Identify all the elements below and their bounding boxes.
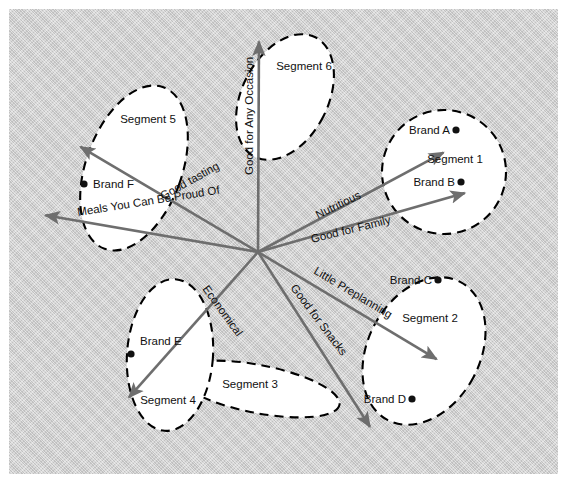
segment-label-6: Segment 6	[276, 60, 332, 72]
brand-label: Brand F	[93, 178, 134, 190]
segment-shape-6	[216, 18, 353, 176]
segment-label-5: Segment 5	[120, 113, 176, 125]
attribute-label-1: Good for Any Occasion	[243, 57, 255, 175]
segment-label-4: Segment 4	[140, 394, 196, 406]
attribute-label-2: Nutritious	[314, 189, 363, 221]
perceptual-map-svg: Good for Any OccasionNutritiousGood for …	[9, 9, 558, 474]
segments-layer	[59, 18, 510, 446]
screenshot-root: Good for Any OccasionNutritiousGood for …	[0, 0, 567, 484]
segment-shape-4	[122, 276, 218, 434]
segment-label-3: Segment 3	[222, 378, 278, 390]
brand-label: Brand C	[390, 274, 432, 286]
brand-label: Brand D	[364, 393, 406, 405]
brand-dot-icon	[127, 350, 134, 357]
segment-shape-5	[59, 71, 208, 265]
segment-label-1: Segment 1	[427, 153, 483, 165]
brand-dot-icon	[80, 180, 87, 187]
attribute-vector-1	[258, 41, 259, 252]
brand-dot-icon	[452, 126, 459, 133]
segment-label-2: Segment 2	[402, 312, 458, 324]
brand-dot-icon	[434, 276, 441, 283]
brand-label: Brand E	[140, 335, 182, 347]
brand-dot-icon	[457, 178, 464, 185]
brand-label: Brand A	[409, 124, 450, 136]
diagram-panel: Good for Any OccasionNutritiousGood for …	[9, 9, 558, 474]
brand-dot-icon	[408, 395, 415, 402]
brand-label: Brand B	[413, 176, 455, 188]
